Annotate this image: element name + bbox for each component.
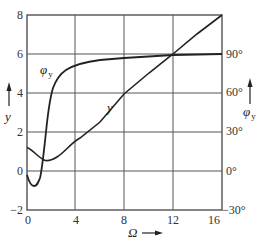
y-axis-ticks: 8 6 4 2 0 −2 — [10, 8, 23, 217]
y2-axis-label: φy — [243, 78, 256, 121]
svg-text:0°: 0° — [226, 164, 237, 178]
arrow-up-icon — [7, 82, 12, 91]
svg-text:φy: φy — [243, 104, 256, 121]
svg-text:Ω: Ω — [128, 225, 137, 240]
svg-text:0: 0 — [17, 164, 23, 178]
svg-text:−2: −2 — [10, 203, 23, 217]
chart-canvas: φy y 8 6 4 2 0 −2 0 4 8 12 16 90° 60° 30… — [0, 0, 262, 241]
svg-text:0: 0 — [25, 213, 31, 227]
svg-text:2: 2 — [17, 125, 23, 139]
svg-text:4: 4 — [17, 86, 23, 100]
arrow-up-icon — [248, 78, 253, 87]
x-axis-ticks: 0 4 8 12 16 — [25, 213, 220, 227]
svg-text:y: y — [3, 109, 11, 124]
arrow-right-icon — [155, 231, 163, 236]
phi-curve-label: φy — [40, 62, 53, 79]
y2-axis-ticks: 90° 60° 30° 0° −30° — [222, 47, 246, 217]
y-curve-label: y — [105, 100, 113, 115]
svg-text:60°: 60° — [226, 85, 243, 99]
svg-text:6: 6 — [17, 47, 23, 61]
svg-text:−30°: −30° — [222, 203, 246, 217]
svg-text:8: 8 — [17, 8, 23, 22]
y-axis-label: y — [3, 82, 12, 124]
svg-text:30°: 30° — [226, 124, 243, 138]
grid — [27, 15, 222, 210]
svg-text:16: 16 — [208, 213, 220, 227]
svg-text:12: 12 — [167, 213, 179, 227]
svg-text:8: 8 — [121, 213, 127, 227]
svg-text:4: 4 — [73, 213, 79, 227]
svg-text:90°: 90° — [226, 47, 243, 61]
x-axis-label: Ω — [128, 225, 163, 240]
